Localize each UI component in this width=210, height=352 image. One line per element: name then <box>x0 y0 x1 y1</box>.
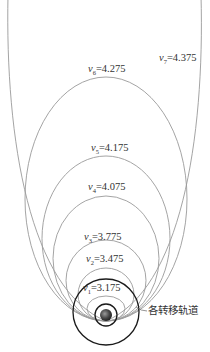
transfer-orbits-diagram: v1=3.175v2=3.475v3=3.775v4=4.075v5=4.175… <box>0 0 210 352</box>
velocity-label-v6: v6=4.275 <box>88 63 125 76</box>
orbits-layer <box>8 0 202 321</box>
velocity-label-v2: v2=3.475 <box>86 253 123 266</box>
velocity-label-v7: v7=4.375 <box>159 52 196 65</box>
earth-icon <box>100 309 112 321</box>
velocity-label-v3: v3=3.775 <box>84 231 121 244</box>
annotation-label: 各转移轨道 <box>148 304 199 316</box>
velocity-label-v4: v4=4.075 <box>88 181 125 194</box>
earth-layer <box>100 309 112 321</box>
orbit-v7 <box>8 0 202 321</box>
velocity-label-v5: v5=4.175 <box>91 142 128 155</box>
